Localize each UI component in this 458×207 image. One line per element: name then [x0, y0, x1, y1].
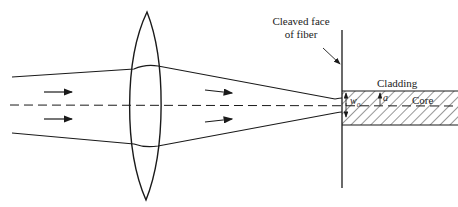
arrow-out-upper	[205, 90, 232, 93]
beam-lower-edge	[12, 113, 335, 147]
beam-upper-edge	[12, 65, 335, 99]
lens	[130, 12, 162, 200]
cladding-label: Cladding	[377, 77, 418, 89]
arrow-out-lower	[205, 119, 232, 122]
cleaved-face-pointer	[323, 48, 340, 64]
core-label: Core	[412, 94, 434, 106]
core-radius-label: a	[383, 92, 388, 103]
cleaved-face-label-line1: Cleaved face	[272, 15, 329, 27]
fiber-coupling-diagram: Cleaved face of fiber Cladding Core w0 a	[0, 0, 458, 207]
beam-waist-lower	[335, 112, 342, 113]
cleaved-face-label-line2: of fiber	[285, 28, 318, 40]
beam-waist-upper	[335, 98, 342, 99]
